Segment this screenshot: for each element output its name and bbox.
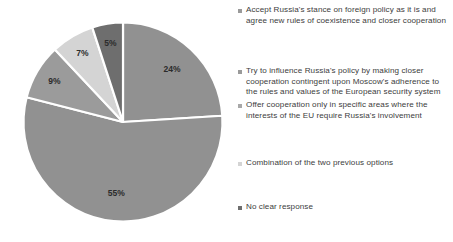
legend-marker-icon	[238, 206, 242, 210]
legend-item-label: Try to influence Russia's policy by maki…	[246, 66, 448, 98]
legend-item-accept[interactable]: Accept Russia's stance on foreign policy…	[238, 5, 448, 26]
legend-item-influence[interactable]: Try to influence Russia's policy by maki…	[238, 66, 448, 98]
slice-label-9: 9%	[48, 76, 61, 86]
legend-item-label: Combination of the two previous options	[246, 158, 393, 169]
legend-item-offer[interactable]: Offer cooperation only in specific areas…	[238, 100, 448, 121]
slice-label-24: 24%	[163, 64, 180, 74]
legend-item-label: Accept Russia's stance on foreign policy…	[246, 5, 448, 26]
pie-plot-area: 24% 55% 9% 7% 5%	[0, 0, 232, 242]
legend-marker-icon	[238, 70, 242, 74]
legend-item-label: No clear response	[246, 202, 313, 213]
legend-marker-icon	[238, 104, 242, 108]
legend-item-label: Offer cooperation only in specific areas…	[246, 100, 448, 121]
legend-item-no-clear-response[interactable]: No clear response	[238, 202, 448, 213]
slice-label-5: 5%	[104, 38, 117, 48]
legend-item-combination[interactable]: Combination of the two previous options	[238, 158, 448, 169]
chart-legend: Accept Russia's stance on foreign policy…	[238, 0, 453, 242]
pie-chart: 24% 55% 9% 7% 5% Accept Russia's stance …	[0, 0, 453, 242]
legend-marker-icon	[238, 9, 242, 13]
slice-label-55: 55%	[108, 188, 125, 198]
pie-svg: 24% 55% 9% 7% 5%	[0, 0, 232, 242]
legend-marker-icon	[238, 162, 242, 166]
slice-label-7: 7%	[76, 48, 89, 58]
